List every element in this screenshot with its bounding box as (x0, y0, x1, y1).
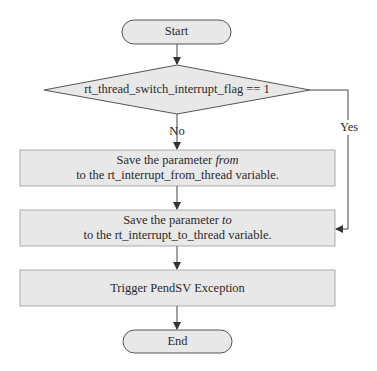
no-branch-label: No (162, 124, 192, 139)
decision-label: rt_thread_switch_interrupt_flag == 1 (44, 82, 310, 97)
step1-prefix: Save the parameter (116, 153, 215, 167)
step2-label: Save the parameter to to the rt_interrup… (20, 213, 335, 243)
step1-line2: to the rt_interrupt_from_thread variable… (20, 168, 335, 183)
start-label: Start (122, 24, 231, 39)
step1-label: Save the parameter from to the rt_interr… (20, 153, 335, 183)
step2-line1: Save the parameter to (20, 213, 335, 228)
step2-prefix: Save the parameter (123, 213, 222, 227)
step2-line2: to the rt_interrupt_to_thread variable. (20, 228, 335, 243)
yes-branch-label: Yes (337, 120, 361, 135)
step3-label: Trigger PendSV Exception (20, 281, 335, 296)
end-label: End (123, 334, 232, 349)
step1-param-from: from (215, 153, 238, 167)
flowchart-canvas (0, 0, 377, 371)
step1-line1: Save the parameter from (20, 153, 335, 168)
step2-param-to: to (222, 213, 232, 227)
